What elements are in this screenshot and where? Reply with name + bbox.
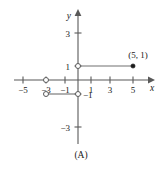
x-tick-label-minus5: −5 xyxy=(18,85,28,95)
figure-panel: −5 −3 −1 1 3 5 3 1 −1 −3 y x (5, 1) (A) xyxy=(0,0,162,169)
open-circle-at-0-1 xyxy=(76,64,81,69)
y-tick-label-minus1: −1 xyxy=(83,90,93,100)
coordinate-label-5-1: (5, 1) xyxy=(128,50,148,60)
x-tick-label-plus3: 3 xyxy=(108,85,113,95)
open-circle-at-minus3-0 xyxy=(44,78,49,83)
x-axis xyxy=(14,77,155,84)
open-circle-at-0-minus1 xyxy=(76,92,81,97)
y-axis-arrow-icon xyxy=(75,9,82,16)
coordinate-plane-graph: −5 −3 −1 1 3 5 3 1 −1 −3 y x (5, 1) xyxy=(0,0,162,150)
x-tick-label-plus5: 5 xyxy=(131,85,136,95)
filled-circle-at-5-1 xyxy=(131,64,135,68)
figure-caption: (A) xyxy=(0,150,162,160)
y-tick-label-plus1: 1 xyxy=(66,62,71,72)
y-tick-label-plus3: 3 xyxy=(66,29,71,39)
y-tick-label-minus3: −3 xyxy=(60,123,70,133)
x-axis-label: x xyxy=(149,83,155,93)
y-axis xyxy=(75,9,82,144)
upper-step-segment xyxy=(76,64,136,69)
open-circle-at-minus3-minus1 xyxy=(44,92,49,97)
y-axis-label: y xyxy=(66,11,72,21)
